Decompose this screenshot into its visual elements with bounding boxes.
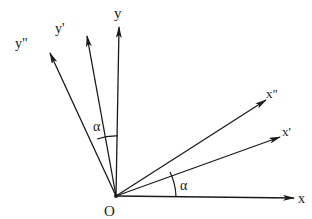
origin-label: O <box>104 203 115 219</box>
y-prime-label: y' <box>55 21 65 36</box>
y-double-prime-label: y" <box>15 36 28 51</box>
x-double-prime-axis <box>116 100 266 196</box>
x-axis-label: x <box>298 191 305 206</box>
alpha-label-y: α <box>93 119 101 134</box>
origin-point <box>114 194 118 198</box>
y-prime-axis <box>87 36 116 196</box>
rotation-diagram: O x x' x" y y' y" α α <box>0 0 312 219</box>
y-axis-label: y <box>114 5 122 21</box>
diagram-svg: O x x' x" y y' y" α α <box>0 0 312 219</box>
x-prime-label: x' <box>282 124 291 139</box>
y-axis <box>116 27 119 196</box>
y-double-prime-axis <box>50 53 116 196</box>
x-double-prime-label: x" <box>266 86 278 101</box>
x-prime-axis <box>116 137 280 196</box>
alpha-label-x: α <box>180 178 188 193</box>
angle-arc-y <box>97 136 118 139</box>
x-axis <box>116 196 294 198</box>
